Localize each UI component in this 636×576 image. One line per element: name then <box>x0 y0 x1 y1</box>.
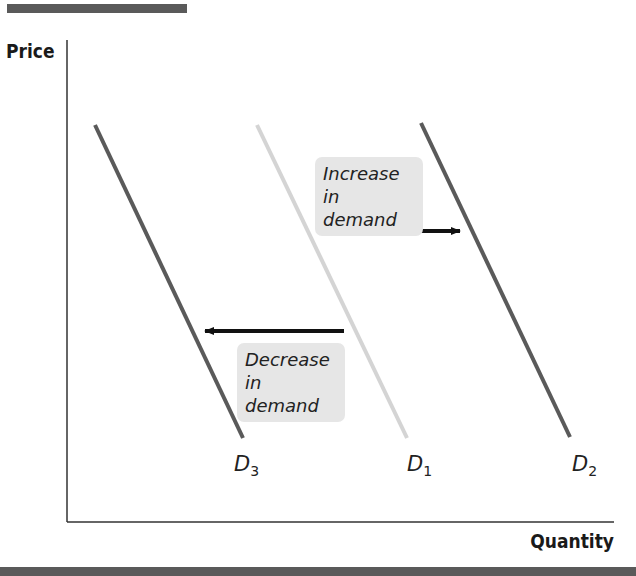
decrease-in-demand-callout: Decrease in demand <box>237 343 345 422</box>
curve-label-d2: D2 <box>572 452 597 479</box>
curve-label-d3-sub: 3 <box>250 463 259 479</box>
curve-label-d3: D3 <box>234 452 259 479</box>
x-axis-label: Quantity <box>530 530 614 552</box>
increase-in-demand-callout: Increase in demand <box>315 157 423 236</box>
demand-curve-d3 <box>95 125 243 438</box>
demand-curve-d2 <box>421 123 570 437</box>
curve-label-d1-sub: 1 <box>423 463 432 479</box>
demand-shift-chart <box>0 0 636 576</box>
curve-label-d1-base: D <box>407 452 423 476</box>
curve-label-d2-sub: 2 <box>588 463 597 479</box>
curve-label-d3-base: D <box>234 452 250 476</box>
curve-label-d2-base: D <box>572 452 588 476</box>
y-axis-label: Price <box>6 40 55 62</box>
curve-label-d1: D1 <box>407 452 432 479</box>
bottom-rule <box>0 567 636 576</box>
